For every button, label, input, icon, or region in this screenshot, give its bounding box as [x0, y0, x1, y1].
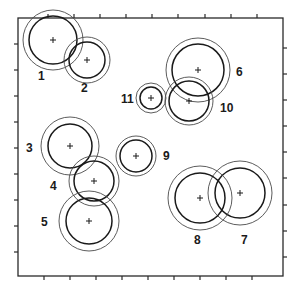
circle-group-3: 3 — [26, 117, 99, 175]
circle-group-6: 6 — [166, 38, 243, 102]
circle-label: 11 — [121, 92, 134, 106]
circle-label: 7 — [241, 233, 248, 247]
circle-group-7: 7 — [208, 161, 272, 247]
circle-group-8: 8 — [168, 166, 232, 247]
circle-label: 4 — [50, 179, 57, 193]
circle-label: 2 — [81, 81, 88, 95]
circle-group-10: 10 — [165, 77, 234, 125]
circle-label: 8 — [194, 233, 201, 247]
circle-label: 9 — [163, 149, 170, 163]
circle-label: 1 — [38, 69, 45, 83]
circle-label: 6 — [236, 65, 243, 79]
circle-group-2: 2 — [64, 37, 110, 95]
circle-label: 5 — [41, 215, 48, 229]
circle-label: 10 — [220, 101, 234, 115]
circle-group-5: 5 — [41, 191, 119, 251]
circle-label: 3 — [26, 141, 33, 155]
circle-group-9: 9 — [116, 136, 170, 176]
circle-diagram: 1234567891011 — [0, 0, 298, 291]
circle-group-11: 11 — [121, 83, 166, 113]
circle-groups: 1234567891011 — [23, 10, 272, 251]
